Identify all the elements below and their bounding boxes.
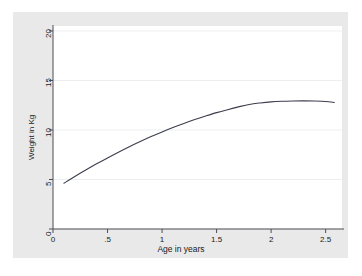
x-tick-label: .5 <box>98 235 118 244</box>
x-axis-title: Age in years <box>0 244 362 254</box>
data-line <box>64 101 334 183</box>
chart-figure: 051015200.511.522.5 Weight in Kg Age in … <box>0 0 362 276</box>
gridlines-group <box>53 31 342 229</box>
y-tick-label: 5 <box>44 182 53 186</box>
y-tick-label: 20 <box>44 29 53 38</box>
data-series-group <box>64 101 334 183</box>
axes-group <box>53 25 344 229</box>
y-tick-label: 10 <box>44 128 53 137</box>
x-tick-label: 0 <box>43 235 63 244</box>
x-tick-label: 1 <box>152 235 172 244</box>
tick-marks-group <box>49 31 326 233</box>
x-tick-label: 1.5 <box>207 235 227 244</box>
y-axis-title-text: Weight in Kg <box>27 115 36 160</box>
y-tick-label: 15 <box>44 79 53 88</box>
x-tick-label: 2.5 <box>316 235 336 244</box>
x-tick-label: 2 <box>261 235 281 244</box>
